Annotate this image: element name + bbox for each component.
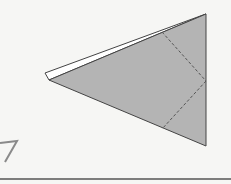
origami-diagram [0,0,231,184]
diagram-svg [0,0,231,184]
paper-triangle [49,14,206,146]
step-number-fragment [0,141,17,162]
